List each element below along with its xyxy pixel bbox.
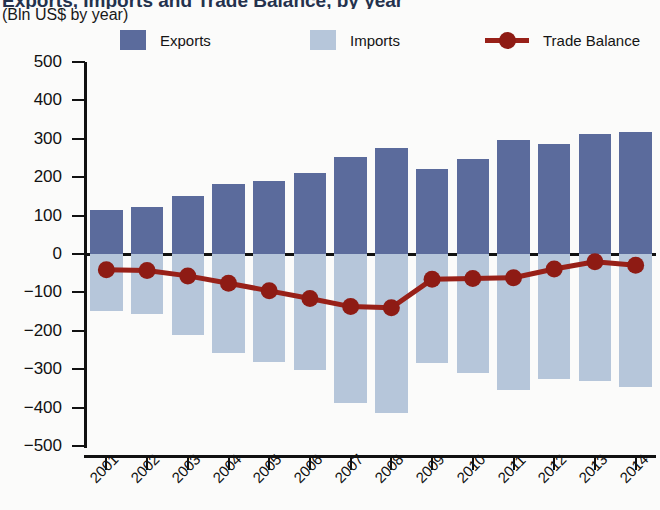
bar-imports-2013	[579, 254, 612, 381]
bar-imports-2014	[619, 254, 652, 387]
y-tick-label: 300	[10, 129, 62, 149]
y-tick	[72, 407, 85, 409]
bar-imports-2010	[457, 254, 490, 373]
x-axis-line	[84, 455, 656, 458]
y-tick	[72, 215, 85, 217]
y-tick-label: −300	[10, 359, 62, 379]
bar-exports-2008	[375, 148, 408, 254]
bar-exports-2014	[619, 132, 652, 254]
y-tick	[72, 138, 85, 140]
y-tick	[72, 99, 85, 101]
bar-exports-2010	[457, 159, 490, 254]
y-tick	[72, 445, 85, 447]
y-tick-label: 100	[10, 206, 62, 226]
bar-imports-2004	[212, 254, 245, 353]
bar-exports-2012	[538, 144, 571, 254]
bar-imports-2009	[416, 254, 449, 363]
bar-imports-2002	[131, 254, 164, 314]
y-tick-label: 0	[10, 244, 62, 264]
bar-imports-2007	[334, 254, 367, 403]
y-tick	[72, 330, 85, 332]
bar-exports-2001	[90, 210, 123, 254]
bar-exports-2004	[212, 184, 245, 254]
bar-imports-2012	[538, 254, 571, 379]
y-tick	[72, 176, 85, 178]
bar-imports-2011	[497, 254, 530, 390]
bar-exports-2011	[497, 140, 530, 254]
bar-exports-2009	[416, 169, 449, 254]
y-tick	[72, 253, 85, 255]
bar-imports-2005	[253, 254, 286, 362]
y-tick-label: 500	[10, 52, 62, 72]
bar-exports-2006	[294, 173, 327, 254]
y-tick-label: −100	[10, 282, 62, 302]
bar-imports-2001	[90, 254, 123, 311]
y-tick-label: 400	[10, 90, 62, 110]
y-tick-label: 200	[10, 167, 62, 187]
chart-container: Exports, Imports and Trade Balance, by y…	[0, 0, 660, 510]
y-tick	[72, 61, 85, 63]
y-tick	[72, 291, 85, 293]
bar-imports-2003	[172, 254, 205, 335]
y-tick	[72, 368, 85, 370]
y-tick-label: −400	[10, 398, 62, 418]
bar-exports-2002	[131, 207, 164, 254]
y-tick-label: −200	[10, 321, 62, 341]
plot-area: 5004003002001000−100−200−300−400−500 200…	[0, 0, 660, 510]
y-tick-label: −500	[10, 436, 62, 456]
bar-exports-2003	[172, 196, 205, 254]
bar-exports-2005	[253, 181, 286, 254]
bar-imports-2008	[375, 254, 408, 413]
bar-exports-2007	[334, 157, 367, 254]
bar-exports-2013	[579, 134, 612, 254]
bar-imports-2006	[294, 254, 327, 370]
